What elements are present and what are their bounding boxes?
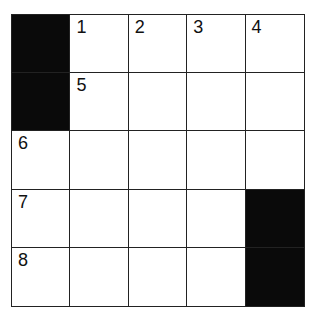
clue-number: 5 xyxy=(76,75,86,95)
crossword-cell[interactable]: 8 xyxy=(12,248,70,306)
crossword-cell[interactable] xyxy=(187,131,245,189)
crossword-cell[interactable]: 7 xyxy=(12,190,70,248)
clue-number: 1 xyxy=(76,17,86,37)
crossword-cell[interactable] xyxy=(187,190,245,248)
clue-number: 6 xyxy=(18,133,28,153)
clue-number: 3 xyxy=(193,17,203,37)
crossword-cell[interactable] xyxy=(129,73,187,131)
crossword-cell[interactable]: 5 xyxy=(70,73,128,131)
black-square xyxy=(12,73,70,131)
clue-number: 4 xyxy=(252,17,262,37)
crossword-cell[interactable] xyxy=(187,248,245,306)
crossword-cell[interactable]: 2 xyxy=(129,15,187,73)
clue-number: 2 xyxy=(135,17,145,37)
black-square xyxy=(246,248,304,306)
crossword-cell[interactable]: 1 xyxy=(70,15,128,73)
crossword-cell[interactable]: 6 xyxy=(12,131,70,189)
crossword-cell[interactable] xyxy=(70,190,128,248)
black-square xyxy=(12,15,70,73)
crossword-cell[interactable]: 4 xyxy=(246,15,304,73)
crossword-cell[interactable] xyxy=(70,131,128,189)
clue-number: 7 xyxy=(18,192,28,212)
crossword-cell[interactable] xyxy=(129,190,187,248)
crossword-cell[interactable] xyxy=(246,73,304,131)
black-square xyxy=(246,190,304,248)
crossword-cell[interactable]: 3 xyxy=(187,15,245,73)
clue-number: 8 xyxy=(18,250,28,270)
crossword-cell[interactable] xyxy=(129,248,187,306)
crossword-cell[interactable] xyxy=(129,131,187,189)
crossword-cell[interactable] xyxy=(187,73,245,131)
crossword-cell[interactable] xyxy=(70,248,128,306)
crossword-grid: 12345678 xyxy=(11,14,305,307)
crossword-cell[interactable] xyxy=(246,131,304,189)
